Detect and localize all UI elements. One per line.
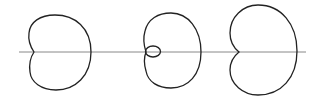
cardioid-curve — [230, 5, 297, 95]
limacon-diagram — [0, 0, 319, 99]
looped-limacon-curve — [144, 13, 201, 88]
